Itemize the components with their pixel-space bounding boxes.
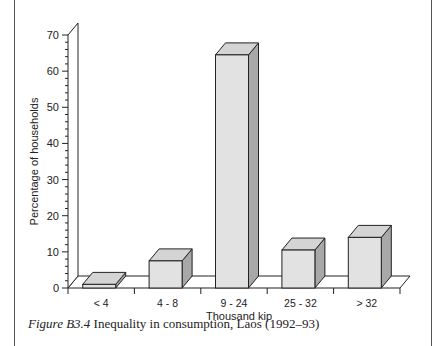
y-tick-label: 70 <box>47 29 59 41</box>
figure-caption-text: Inequality in consumption, Laos (1992–93… <box>94 316 320 331</box>
y-tick-label: 50 <box>47 101 59 113</box>
y-tick-label: 40 <box>47 137 59 149</box>
chart-wall <box>68 23 78 288</box>
x-tick-label: 25 - 32 <box>284 297 317 309</box>
bar <box>149 249 192 288</box>
figure-label: Figure B3.4 <box>28 316 90 331</box>
y-tick-label: 10 <box>47 246 59 258</box>
y-tick-label: 30 <box>47 174 59 186</box>
bar <box>216 43 259 288</box>
figure-caption: Figure B3.4 Inequality in consumption, L… <box>28 316 319 332</box>
chart-bars <box>83 43 392 288</box>
y-tick-label: 20 <box>47 210 59 222</box>
bar-chart: 010203040506070Percentage of households<… <box>0 0 439 346</box>
y-tick-label: 0 <box>53 282 59 294</box>
bar <box>282 238 325 288</box>
y-tick-label: 60 <box>47 65 59 77</box>
x-tick-label: > 32 <box>356 297 377 309</box>
x-tick-label: < 4 <box>94 297 109 309</box>
y-axis-label: Percentage of households <box>28 97 40 225</box>
x-tick-label: 4 - 8 <box>157 297 178 309</box>
bar <box>348 225 391 288</box>
x-tick-label: 9 - 24 <box>221 297 248 309</box>
